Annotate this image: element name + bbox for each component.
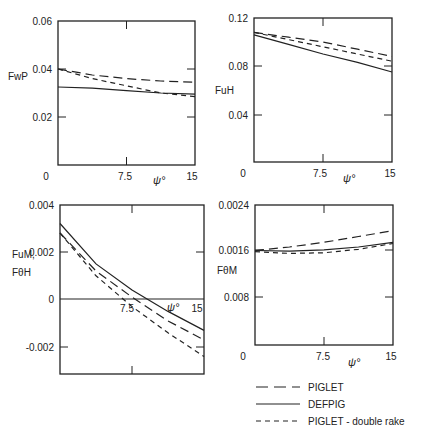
series-line: [58, 87, 195, 94]
x-tick-label: 0: [240, 168, 246, 179]
y-axis-label: FuH: [215, 85, 234, 96]
panel-4: 0.00240.00160.00807.515ψ°FθM: [217, 200, 397, 368]
y-axis-label: FθH: [12, 267, 31, 278]
y-tick-label: 0.08: [229, 61, 249, 72]
y-axis-label: FuM,: [12, 249, 35, 260]
x-tick-label: 7.5: [313, 168, 327, 179]
legend-label: PIGLET: [308, 382, 344, 393]
y-tick-label: 0.008: [224, 292, 249, 303]
x-tick-label: 15: [384, 168, 396, 179]
chart-canvas: 0.060.040.0207.515ψ°FwP0.120.080.0407.51…: [0, 0, 437, 443]
x-tick-label: 15: [191, 303, 203, 314]
x-tick-label: 0: [240, 351, 246, 362]
y-axis-label: FwP: [8, 71, 28, 82]
x-tick-label: 7.5: [120, 303, 134, 314]
legend-label: DEFPIG: [308, 399, 345, 410]
series-line: [60, 233, 204, 357]
legend: PIGLETDEFPIGPIGLET - double rake: [256, 382, 405, 427]
y-tick-label: 0.04: [229, 110, 249, 121]
x-axis-label: ψ°: [167, 301, 180, 313]
series-line: [254, 32, 392, 56]
panel-3: 0.0040.0020-0.0027.515ψ°FuM,FθH: [12, 200, 204, 374]
panel-1: 0.060.040.0207.515ψ°FwP: [8, 16, 198, 186]
y-tick-label: 0: [48, 294, 54, 305]
y-tick-label: 0.02: [33, 112, 53, 123]
x-tick-label: 15: [385, 351, 397, 362]
y-tick-label: 0.06: [33, 16, 53, 27]
series-line: [60, 233, 204, 340]
x-axis-label: ψ°: [153, 174, 166, 186]
panel-2: 0.120.080.0407.515ψ°FuH: [215, 13, 396, 184]
y-tick-label: 0.004: [29, 200, 54, 211]
series-line: [254, 32, 392, 61]
figure: 0.060.040.0207.515ψ°FwP0.120.080.0407.51…: [0, 0, 437, 443]
y-tick-label: -0.002: [26, 342, 55, 353]
x-axis-label: ψ°: [343, 172, 356, 184]
y-tick-label: 0.0024: [218, 200, 249, 211]
y-tick-label: 0.0016: [218, 245, 249, 256]
y-tick-label: 0.12: [229, 13, 249, 24]
y-axis-label: FθM: [217, 265, 237, 276]
series-line: [58, 69, 195, 82]
x-tick-label: 7.5: [118, 171, 132, 182]
legend-label: PIGLET - double rake: [308, 416, 405, 427]
x-tick-label: 0: [43, 171, 49, 182]
x-tick-label: 15: [186, 171, 198, 182]
series-line: [254, 35, 392, 72]
x-tick-label: 7.5: [316, 351, 330, 362]
y-tick-label: 0.04: [33, 64, 53, 75]
series-line: [60, 224, 204, 331]
x-axis-label: ψ°: [348, 356, 361, 368]
